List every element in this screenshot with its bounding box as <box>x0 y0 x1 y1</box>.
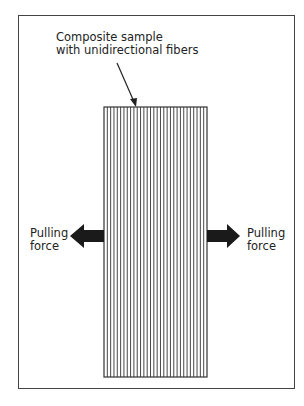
pointer-arrowhead-icon <box>130 98 137 107</box>
right-pull-arrow-icon <box>207 224 240 248</box>
sample-outline <box>104 107 207 377</box>
composite-sample <box>107 107 203 377</box>
pointer-line <box>117 63 135 104</box>
diagram-graphics <box>0 0 304 406</box>
left-pull-arrow-icon <box>70 224 104 248</box>
